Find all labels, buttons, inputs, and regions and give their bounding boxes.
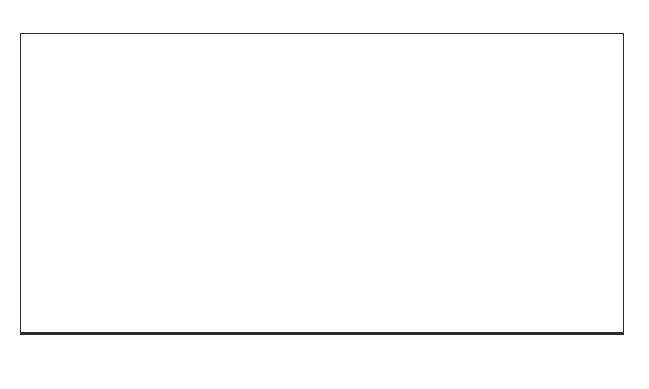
plot-frame	[20, 33, 624, 333]
plot-rows	[21, 34, 623, 332]
x-axis	[20, 333, 624, 353]
x-axis-line	[20, 333, 624, 335]
